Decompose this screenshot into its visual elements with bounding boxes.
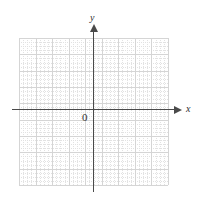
grid-major-vertical-line (36, 38, 37, 185)
grid-major-vertical-line (19, 38, 20, 185)
y-axis-line (93, 30, 94, 192)
grid-major-vertical-line (168, 38, 169, 185)
x-axis-arrowhead-icon (174, 106, 182, 114)
grid-major-vertical-line (151, 38, 152, 185)
grid-major-vertical-line (102, 38, 103, 185)
grid-major-vertical-line (118, 38, 119, 185)
x-axis-label: x (186, 104, 190, 114)
coordinate-plane-figure: y x 0 (0, 0, 202, 205)
x-axis-line (12, 109, 178, 110)
grid-major-vertical-line (69, 38, 70, 185)
grid-major-vertical-line (52, 38, 53, 185)
grid-major-vertical-line (135, 38, 136, 185)
origin-label: 0 (82, 112, 88, 123)
y-axis-arrowhead-icon (90, 24, 98, 32)
y-axis-label: y (90, 13, 94, 23)
